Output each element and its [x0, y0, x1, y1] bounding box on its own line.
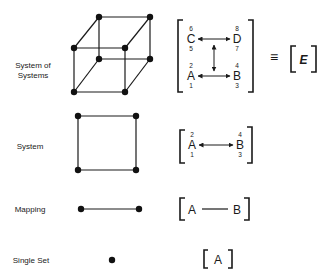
square-graph: [75, 113, 139, 173]
matrix-system: 2 A 1 4 B 3: [180, 127, 252, 163]
node-icon: [78, 206, 84, 212]
svg-text:8: 8: [235, 25, 239, 32]
result-matrix: E: [291, 46, 316, 72]
node-icon: [147, 56, 153, 62]
svg-text:7: 7: [235, 45, 239, 52]
node-icon: [122, 89, 128, 95]
row-system: System 2 A 1 4 B 3: [17, 113, 252, 173]
cube-graph: [71, 14, 153, 95]
vertex-b: B: [233, 203, 241, 217]
svg-text:1: 1: [190, 151, 194, 158]
node-icon: [75, 113, 81, 119]
node-icon: [71, 89, 77, 95]
node-icon: [96, 56, 102, 62]
svg-text:3: 3: [238, 151, 242, 158]
svg-text:2: 2: [189, 62, 193, 69]
node-icon: [133, 167, 139, 173]
node-icon: [122, 45, 128, 51]
vertex-a: A: [214, 253, 222, 267]
right-bracket-icon: [248, 20, 253, 92]
row-label: Mapping: [15, 205, 46, 214]
result-letter: E: [299, 53, 308, 67]
line-graph: [78, 206, 142, 212]
left-bracket-icon: [291, 46, 296, 72]
svg-text:2: 2: [190, 131, 194, 138]
svg-text:5: 5: [189, 45, 193, 52]
vertex-d: D: [233, 32, 242, 46]
matrix-mapping: A B: [180, 198, 249, 220]
svg-text:4: 4: [238, 131, 242, 138]
node-icon: [71, 45, 77, 51]
left-bracket-icon: [204, 250, 208, 268]
matrix-system-of-systems: 6 C 5 8 D 7 2 A 1 4 B 3: [178, 20, 253, 92]
node-icon: [133, 113, 139, 119]
vertex-a: A: [188, 138, 196, 152]
equivalence-icon: ≡: [270, 49, 278, 65]
vertex-b: B: [233, 69, 241, 83]
svg-text:3: 3: [235, 82, 239, 89]
right-bracket-icon: [247, 127, 252, 163]
row-label: Single Set: [13, 256, 50, 265]
svg-text:1: 1: [189, 82, 193, 89]
node-icon: [109, 257, 115, 263]
hierarchy-diagram: System of Systems: [0, 0, 328, 280]
left-bracket-icon: [180, 198, 185, 220]
vertex-a: A: [188, 203, 196, 217]
vertex-b: B: [236, 138, 244, 152]
right-bracket-icon: [244, 198, 249, 220]
right-bracket-icon: [311, 46, 316, 72]
svg-text:6: 6: [189, 25, 193, 32]
matrix-single-set: A: [204, 250, 232, 268]
node-icon: [96, 14, 102, 20]
vertex-a: A: [187, 69, 195, 83]
row-mapping: Mapping A B: [15, 198, 249, 220]
svg-text:4: 4: [235, 62, 239, 69]
node-icon: [75, 167, 81, 173]
right-bracket-icon: [228, 250, 232, 268]
left-bracket-icon: [178, 20, 183, 92]
node-icon: [136, 206, 142, 212]
row-label: System: [17, 142, 44, 151]
left-bracket-icon: [180, 130, 185, 163]
row-label-line2: Systems: [18, 71, 49, 80]
node-icon: [147, 14, 153, 20]
vertex-c: C: [187, 32, 196, 46]
row-single-set: Single Set A: [13, 250, 232, 268]
row-label-line1: System of: [15, 61, 51, 70]
row-system-of-systems: System of Systems: [15, 14, 316, 95]
